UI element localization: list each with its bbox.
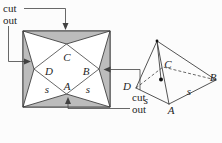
pyramid-label-d: D — [122, 80, 131, 92]
base-center-dot — [159, 78, 163, 82]
edge-apex-d — [136, 41, 157, 88]
pyramid-label-c: C — [164, 58, 172, 70]
arrow-down-icon — [63, 23, 69, 30]
pyramid-label-b: B — [210, 71, 217, 83]
net-side-label-right: s — [86, 83, 90, 95]
pyramid-hidden-edges — [136, 67, 216, 88]
callout-line-top — [24, 9, 66, 25]
diagram-canvas: C D B A s s cut out cut out — [0, 0, 222, 143]
net-label-a: A — [63, 80, 71, 92]
cutout-note-topleft-line2: out — [3, 14, 17, 26]
apex-dot — [156, 40, 159, 43]
pyramid-side-label-right: s — [187, 85, 191, 97]
net-figure: C D B A s s — [23, 31, 110, 107]
pyramid-side-label-left: s — [144, 94, 148, 106]
fold-pyramid-diagram: C D B A s s cut out cut out — [0, 0, 222, 143]
pyramid-label-a: A — [167, 104, 175, 116]
net-label-d: D — [44, 65, 53, 77]
cutout-note-topleft-line1: cut — [3, 2, 16, 14]
edge-base-ab — [169, 80, 216, 104]
callout-line-left — [9, 26, 25, 62]
net-side-label-left: s — [45, 83, 49, 95]
edge-apex-a — [157, 41, 169, 104]
net-label-c: C — [63, 51, 71, 63]
net-label-b: B — [83, 65, 90, 77]
